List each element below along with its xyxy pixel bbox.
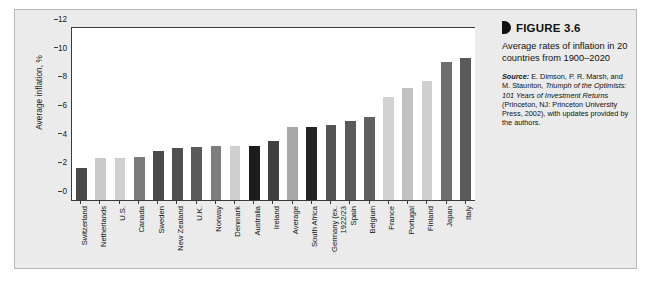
plot-area: 024681012 [71,27,475,200]
bar-cell [245,28,264,200]
bar-cell [168,28,187,200]
x-label-cell: U.K. [186,206,205,268]
x-axis-tick-label: Denmark [234,206,243,237]
x-tick-mark [186,200,205,204]
bar-cell [341,28,360,200]
x-label-cell: Spain [340,206,359,268]
figure-title: FIGURE 3.6 [516,22,581,34]
x-label-cell: U.S. [109,206,128,268]
bar [345,121,356,200]
x-axis-labels: SwitzerlandNetherlandsU.S.CanadaSwedenNe… [71,206,475,268]
y-tick-label: 4 [62,129,72,138]
bar [306,127,317,200]
x-axis-tick-label: South Africa [311,206,320,247]
y-tick-label: 12 [58,15,72,24]
bar [115,158,126,200]
figure-caption: FIGURE 3.6 Average rates of inflation in… [502,21,630,261]
x-label-cell: Finland [417,206,436,268]
x-label-cell: Belgium [360,206,379,268]
x-tick-mark [456,200,475,204]
x-tick-mark [302,200,321,204]
x-label-cell: South Africa [302,206,321,268]
bar-cell [321,28,340,200]
x-label-cell: Denmark [225,206,244,268]
x-axis-tick-label: Ireland [273,206,282,229]
x-axis-tick-label: Japan [446,206,455,227]
x-tick-mark [436,200,455,204]
bar [191,147,202,200]
y-axis-label: Average inflation, % [35,33,44,153]
figure-source: Source: E. Dimson, P. R. Marsh, and M. S… [502,72,630,127]
y-tick-label: 8 [62,72,72,81]
y-tick-label: 6 [62,101,72,110]
x-label-cell: Netherlands [90,206,109,268]
bar [364,117,375,200]
x-axis-tick-label: Portugal [408,206,417,234]
bar [287,127,298,200]
x-axis-tick-label: Spain [350,206,359,225]
x-axis-tick-label: New Zealand [177,206,186,251]
bar-cell [187,28,206,200]
x-tick-mark [398,200,417,204]
x-axis-tick-label: Italy [465,206,474,220]
y-tick-label: 2 [62,158,72,167]
x-axis-tick-label: Average [292,206,301,234]
x-label-cell: Germany (ex. 1922/23 [321,206,340,268]
bar-cell [91,28,110,200]
x-label-cell: Switzerland [71,206,90,268]
bar-series [72,28,475,200]
bar [402,88,413,200]
bar [249,146,260,200]
x-label-cell: Canada [129,206,148,268]
x-label-cell: New Zealand [167,206,186,268]
x-axis-tick-label: Belgium [369,206,378,233]
bar [76,168,87,200]
x-axis-tick-label: U.K. [196,206,205,221]
x-tick-mark [225,200,244,204]
x-tick-mark [244,200,263,204]
bar-cell [456,28,475,200]
y-tick-label: 10 [58,43,72,52]
bar-cell [130,28,149,200]
bar-cell [379,28,398,200]
x-axis-tick-label: Netherlands [100,206,109,247]
bar [441,62,452,200]
x-axis-tick-label: France [388,206,397,230]
x-label-cell: Portugal [398,206,417,268]
x-tick-mark [167,200,186,204]
bar [422,81,433,200]
bar [230,146,241,200]
bar [134,157,145,200]
caption-header: FIGURE 3.6 [502,21,630,34]
x-tick-mark [263,200,282,204]
x-tick-mark [148,200,167,204]
x-axis-tick-label: Australia [254,206,263,236]
x-tick-mark [340,200,359,204]
bar-cell [226,28,245,200]
x-tick-mark [90,200,109,204]
x-label-cell: Average [283,206,302,268]
x-label-cell: Italy [456,206,475,268]
bar-cell [72,28,91,200]
bar-cell [149,28,168,200]
bar-cell [283,28,302,200]
bar-cell [437,28,456,200]
x-label-cell: Japan [436,206,455,268]
bar [153,151,164,200]
bar [95,158,106,200]
x-tick-mark [206,200,225,204]
bar-cell [417,28,436,200]
bar [268,141,279,200]
bar [211,146,222,200]
bar-cell [360,28,379,200]
y-tick-label: 0 [62,187,72,196]
x-axis-tick-marks [71,200,475,204]
figure-panel: Average inflation, % 024681012 Switzerla… [14,9,637,269]
x-axis-tick-label: Switzerland [81,206,90,245]
x-axis-tick-label: Sweden [158,206,167,233]
source-label: Source: [502,72,529,81]
x-axis-tick-label: Norway [215,206,224,232]
source-text-2: (Princeton, NJ: Princeton University Pre… [502,100,628,127]
x-tick-mark [379,200,398,204]
x-label-cell: France [379,206,398,268]
